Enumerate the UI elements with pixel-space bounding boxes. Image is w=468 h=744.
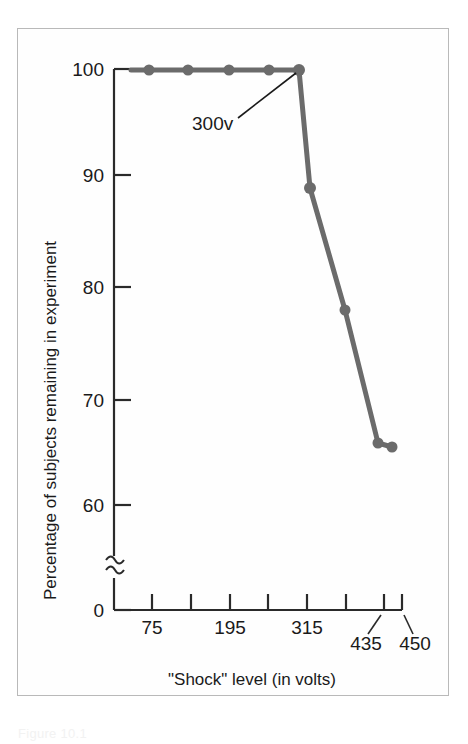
y-axis: 100 90 80 70 60 0 Percentage of subjects… bbox=[41, 59, 131, 621]
data-point-375 bbox=[340, 305, 351, 316]
line-chart: 100 90 80 70 60 0 Percentage of subjects… bbox=[0, 0, 468, 744]
y-axis-title: Percentage of subjects remaining in expe… bbox=[41, 241, 60, 600]
y-tick-label-70: 70 bbox=[83, 390, 104, 411]
series-line bbox=[131, 70, 392, 447]
y-tick-label-80: 80 bbox=[83, 277, 104, 298]
data-point-195 bbox=[224, 65, 235, 76]
annotation-label: 300v bbox=[192, 113, 234, 134]
x-leader-450 bbox=[404, 615, 413, 634]
data-point-435 bbox=[373, 438, 384, 449]
data-point-135 bbox=[183, 65, 194, 76]
data-series-subjects-remaining bbox=[131, 64, 398, 453]
x-tick-label-435: 435 bbox=[350, 633, 382, 654]
x-leader-435 bbox=[368, 615, 381, 634]
y-tick-label-100: 100 bbox=[72, 59, 104, 80]
annotation-300v: 300v bbox=[192, 73, 296, 134]
x-axis: 75 195 315 435 450 "Shock" level (in vol… bbox=[114, 594, 431, 689]
data-point-75 bbox=[144, 65, 155, 76]
x-tick-label-315: 315 bbox=[291, 617, 323, 638]
x-tick-label-195: 195 bbox=[214, 617, 246, 638]
y-axis-break-icon bbox=[106, 557, 124, 574]
figure-caption: Figure 10.1 bbox=[18, 726, 318, 744]
data-point-450 bbox=[387, 442, 398, 453]
x-tick-label-450: 450 bbox=[399, 633, 431, 654]
annotation-leader-line bbox=[238, 73, 296, 118]
figure-root: 100 90 80 70 60 0 Percentage of subjects… bbox=[0, 0, 468, 744]
x-axis-title: "Shock" level (in volts) bbox=[168, 670, 336, 689]
x-tick-label-75: 75 bbox=[141, 617, 162, 638]
y-tick-label-0: 0 bbox=[93, 600, 104, 621]
data-point-255 bbox=[264, 65, 275, 76]
y-tick-label-90: 90 bbox=[83, 165, 104, 186]
y-tick-label-60: 60 bbox=[83, 495, 104, 516]
data-point-315 bbox=[304, 182, 316, 194]
